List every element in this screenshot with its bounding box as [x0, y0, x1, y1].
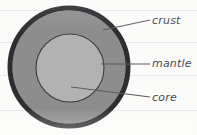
mantle-label: mantle [152, 57, 192, 70]
earth-layers-diagram-page: crust mantle core [0, 0, 197, 135]
crust-label: crust [152, 14, 181, 27]
core-layer-circle [36, 34, 104, 102]
core-label: core [152, 91, 177, 104]
